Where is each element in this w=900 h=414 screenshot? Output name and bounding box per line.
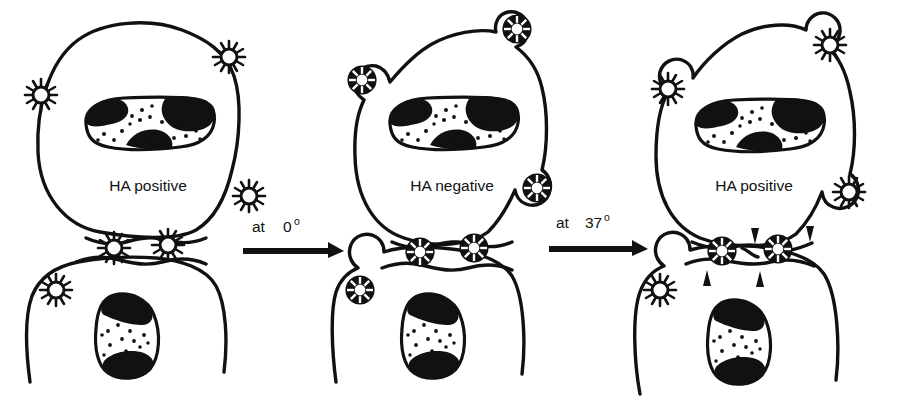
arrow-1-label-value: 0 bbox=[283, 218, 292, 235]
panel-1-cell-label: HA positive bbox=[109, 177, 187, 194]
figure-container: HA positive at 0 o HA negative at 37 o bbox=[0, 0, 900, 414]
panel-2-junction-virion-2 bbox=[461, 235, 488, 262]
panel-3-upper-nucleus bbox=[696, 98, 825, 151]
panel-1-lower-nucleus bbox=[96, 294, 159, 379]
arrow-2-label-text: at bbox=[556, 214, 570, 231]
panel-2-surface-virion-3 bbox=[524, 175, 551, 202]
panel-2-junction-virion-1 bbox=[407, 239, 434, 266]
diagram-canvas: HA positive at 0 o HA negative at 37 o bbox=[0, 0, 900, 414]
panel-3-lower-nucleus bbox=[708, 300, 771, 385]
arrow-1-degree-symbol: o bbox=[294, 215, 300, 227]
arrow-1-label-text: at bbox=[252, 218, 266, 235]
panel-2-surface-virion-4 bbox=[347, 277, 374, 304]
panel-3-cell-label: HA positive bbox=[715, 177, 793, 194]
arrow-2-degree-symbol: o bbox=[604, 211, 610, 223]
arrow-2-label-value: 37 bbox=[585, 214, 602, 231]
panel-2-cell-label: HA negative bbox=[410, 177, 494, 194]
panel-1-upper-nucleus bbox=[86, 96, 215, 149]
panel-3-junction-virion-1 bbox=[709, 238, 736, 265]
panel-2-surface-virion-2 bbox=[504, 16, 531, 43]
panel-2-surface-virion-1 bbox=[349, 67, 376, 94]
panel-2-lower-nucleus bbox=[402, 294, 465, 379]
panel-3-junction-virion-2 bbox=[765, 236, 792, 263]
panel-2-upper-nucleus bbox=[390, 96, 519, 149]
